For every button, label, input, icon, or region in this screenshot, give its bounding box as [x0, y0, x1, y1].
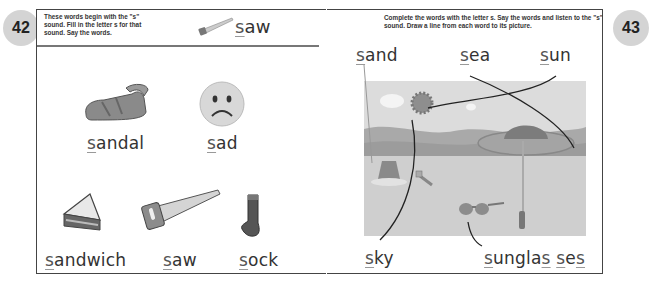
word-rest: ungla: [493, 248, 541, 268]
word-rest: e: [565, 248, 576, 268]
filled-letter[interactable]: s: [576, 248, 585, 268]
word-rest: ky: [374, 248, 394, 268]
matching-lines: [0, 0, 655, 285]
filled-letter[interactable]: s: [365, 248, 374, 268]
word-sunglasses: sunglas ses: [484, 248, 585, 268]
word-sky: sky: [365, 248, 394, 268]
filled-letter[interactable]: s: [484, 248, 493, 268]
filled-letter[interactable]: s: [542, 248, 551, 268]
filled-letter[interactable]: s: [556, 248, 565, 268]
